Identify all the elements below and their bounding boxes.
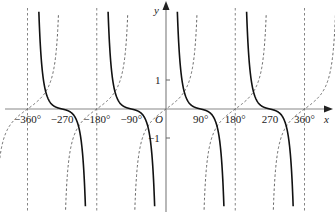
x-tick-label: −360° bbox=[14, 113, 41, 125]
x-tick-label: −180° bbox=[83, 113, 110, 125]
x-tick-label: 90° bbox=[193, 113, 208, 125]
chart: 1−1 −360°−270−180°−90°90°180°270360° x y… bbox=[0, 0, 335, 216]
y-tick-label: 1 bbox=[155, 74, 161, 86]
x-axis-label: x bbox=[323, 113, 329, 125]
origin-label: O bbox=[155, 113, 163, 125]
curves bbox=[0, 12, 335, 210]
x-axis-arrow-icon bbox=[324, 106, 333, 113]
x-tick-label: 270 bbox=[262, 113, 279, 125]
plot-area: 1−1 −360°−270−180°−90°90°180°270360° x y… bbox=[0, 0, 335, 216]
y-axis-label: y bbox=[153, 4, 159, 16]
dashed-curve bbox=[0, 14, 58, 210]
y-axis-arrow-icon bbox=[163, 1, 170, 10]
x-tick-label: −90° bbox=[121, 113, 143, 125]
x-ticks: −360°−270−180°−90°90°180°270360° bbox=[14, 113, 315, 125]
x-tick-label: −270 bbox=[51, 113, 74, 125]
